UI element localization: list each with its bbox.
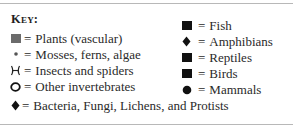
legend-item-insects: = Insects and spiders: [10, 63, 134, 78]
legend-label: Mosses, ferns, algae: [35, 47, 140, 62]
filled-circle-icon: [181, 82, 192, 97]
legend-label: Reptiles: [209, 50, 252, 65]
equals-sign: =: [198, 82, 205, 97]
circle-outline-icon: [10, 79, 21, 94]
square-black-icon: [181, 50, 192, 65]
insect-icon: [10, 63, 21, 78]
legend-label: Other invertebrates: [35, 79, 135, 94]
legend-item-fish: = Fish: [181, 18, 232, 33]
equals-sign: =: [24, 31, 31, 46]
legend-item-amphibians: = Amphibians: [181, 34, 273, 49]
legend-item-mammals: = Mammals: [181, 82, 261, 97]
equals-sign: =: [24, 79, 31, 94]
legend-label: Amphibians: [209, 34, 273, 49]
diamond-icon: [10, 98, 21, 113]
legend-label: Mammals: [209, 82, 261, 97]
legend-item-other-invertebrates: = Other invertebrates: [10, 79, 135, 94]
legend-item-plants: = Plants (vascular): [10, 31, 122, 46]
equals-sign: =: [24, 47, 31, 62]
legend-label: Bacteria, Fungi, Lichens, and Protists: [33, 98, 228, 113]
equals-sign: =: [198, 34, 205, 49]
square-black-icon: [181, 18, 192, 33]
equals-sign: =: [198, 18, 205, 33]
square-gray-icon: [10, 31, 21, 46]
equals-sign: =: [22, 98, 29, 113]
legend-item-reptiles: = Reptiles: [181, 50, 252, 65]
bottom-border-rule: [0, 124, 293, 125]
square-black-icon: [181, 66, 192, 81]
legend-item-bacteria-fungi: = Bacteria, Fungi, Lichens, and Protists: [10, 98, 229, 113]
key-title: Key:: [11, 12, 38, 27]
equals-sign: =: [198, 50, 205, 65]
legend-item-mosses: = Mosses, ferns, algae: [10, 47, 141, 62]
equals-sign: =: [24, 63, 31, 78]
legend-label: Fish: [209, 18, 231, 33]
equals-sign: =: [198, 66, 205, 81]
legend-label: Birds: [209, 66, 237, 81]
legend-item-birds: = Birds: [181, 66, 238, 81]
legend-label: Plants (vascular): [35, 31, 122, 46]
legend-label: Insects and spiders: [35, 63, 133, 78]
top-border-rule: [0, 3, 293, 4]
small-dot-icon: [10, 47, 21, 62]
diamond-icon: [181, 34, 192, 49]
